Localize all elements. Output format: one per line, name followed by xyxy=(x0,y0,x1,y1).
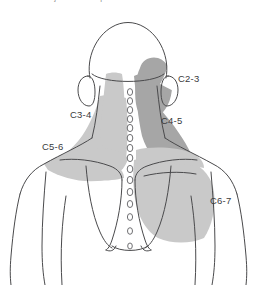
segment-label-c5-6: C5-6 xyxy=(42,141,63,152)
spinous-process-marker xyxy=(128,228,133,235)
spinous-process-marker xyxy=(127,214,132,221)
spinous-process-markers xyxy=(127,89,133,249)
spinous-process-marker xyxy=(127,107,132,114)
left-ear-outline xyxy=(78,76,95,106)
segment-label-c2-3: C2-3 xyxy=(178,73,199,84)
cervical-referral-pattern-figure: Cervical facet joint referral patterns xyxy=(0,0,256,285)
anatomy-illustration: C2-3C3-4C4-5C5-6C6-7 xyxy=(0,0,256,285)
spinous-process-marker xyxy=(127,201,132,208)
zone-c6-7 xyxy=(133,148,214,243)
left-arm-inner-contour xyxy=(42,172,46,285)
thoracolumbar-lower-edge xyxy=(112,246,148,251)
segment-label-c4-5: C4-5 xyxy=(161,115,182,126)
spinous-process-marker xyxy=(127,154,133,161)
spinous-process-marker xyxy=(127,116,132,123)
left-scapula-lateral-border xyxy=(106,180,122,250)
left-arm-outer-contour xyxy=(10,194,20,285)
spinous-process-marker xyxy=(127,134,133,141)
spinous-process-marker xyxy=(127,176,133,183)
segment-label-c6-7: C6-7 xyxy=(210,195,231,206)
spinous-process-marker xyxy=(127,98,132,105)
spinous-process-marker xyxy=(127,89,132,96)
right-arm-outer-contour xyxy=(237,194,247,285)
spinous-process-marker xyxy=(127,188,133,195)
spinous-process-marker xyxy=(128,243,133,249)
spinous-process-marker xyxy=(127,124,133,131)
spinous-process-marker xyxy=(127,165,133,172)
segment-label-c3-4: C3-4 xyxy=(70,109,91,120)
torso-left-flank xyxy=(61,196,66,285)
spinous-process-marker xyxy=(127,144,133,151)
